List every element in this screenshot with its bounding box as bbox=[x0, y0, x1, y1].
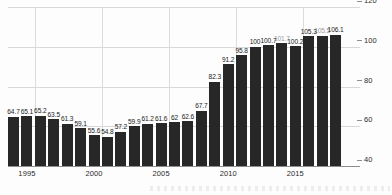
x-axis-tick-2000: 2000 bbox=[85, 169, 102, 178]
y-axis-tick-80: 80 bbox=[357, 76, 373, 85]
bar-rect bbox=[21, 116, 32, 166]
bar-value-label: 63.5 bbox=[48, 111, 60, 118]
bar-value-label: 62 bbox=[171, 114, 178, 121]
bar-rect bbox=[35, 116, 46, 166]
bar-rect bbox=[102, 137, 113, 166]
bar-rect bbox=[48, 119, 59, 166]
bar-value-label: 65.2 bbox=[34, 107, 46, 114]
bar-value-label: 95.8 bbox=[235, 47, 247, 54]
bar-value-label: 59.9 bbox=[128, 118, 140, 125]
bar-value-label: 61.3 bbox=[61, 115, 73, 122]
y-axis-tick-120: 120 bbox=[357, 0, 377, 5]
y-axis-tick-40: 40 bbox=[357, 155, 373, 164]
bar-rect bbox=[129, 126, 140, 166]
bar-chart: 64.765.165.263.561.359.155.654.857.259.9… bbox=[0, 0, 392, 195]
plot-area: 64.765.165.263.561.359.155.654.857.259.9… bbox=[8, 7, 357, 166]
bar-value-label: 82.3 bbox=[209, 73, 221, 80]
bar-rect bbox=[62, 124, 73, 166]
bar-value-label: 61.2 bbox=[141, 115, 153, 122]
bar-value-label: 61.6 bbox=[155, 115, 167, 122]
bar-rect bbox=[236, 55, 247, 166]
x-axis-tick-2015: 2015 bbox=[287, 169, 304, 178]
bar-value-label: 54.8 bbox=[101, 128, 113, 135]
bar-rect bbox=[263, 45, 274, 166]
bar-value-label: 57.2 bbox=[115, 123, 127, 130]
bar-rect bbox=[142, 124, 153, 166]
y-axis-tick-60: 60 bbox=[357, 115, 373, 124]
bar-rect bbox=[89, 135, 100, 166]
bar-rect bbox=[250, 47, 261, 166]
x-axis-tick-2005: 2005 bbox=[153, 169, 170, 178]
bar-series: 64.765.165.263.561.359.155.654.857.259.9… bbox=[8, 7, 357, 166]
bar-rect bbox=[115, 132, 126, 166]
bar-value-label: 100 bbox=[250, 38, 261, 45]
footer-artifact bbox=[150, 186, 390, 191]
y-axis-tick-100: 100 bbox=[357, 36, 377, 45]
bar-rect bbox=[75, 128, 86, 166]
bar-value-label: 91.2 bbox=[222, 56, 234, 63]
bar-rect bbox=[182, 121, 193, 166]
bar-rect bbox=[169, 122, 180, 166]
x-axis-tick-1995: 1995 bbox=[18, 169, 35, 178]
bar-value-label: 65.1 bbox=[21, 108, 33, 115]
bar-value-label: 106.1 bbox=[328, 26, 344, 33]
bar-rect bbox=[317, 36, 328, 166]
bar-value-label: 67.7 bbox=[195, 102, 207, 109]
bar-value-label: 55.6 bbox=[88, 127, 100, 134]
x-axis-tick-2010: 2010 bbox=[220, 169, 237, 178]
bar-rect bbox=[276, 43, 287, 166]
bar-rect bbox=[209, 82, 220, 166]
bar-rect bbox=[196, 111, 207, 166]
x-axis-labels: 19952000200520102015 bbox=[8, 169, 357, 183]
bar-value-label: 62.6 bbox=[182, 113, 194, 120]
bar-rect bbox=[303, 36, 314, 166]
bar-rect bbox=[156, 123, 167, 166]
bar-rect bbox=[330, 35, 341, 166]
x-axis-line bbox=[8, 166, 360, 167]
bar-value-label: 100.2 bbox=[287, 38, 303, 45]
bar-rect bbox=[223, 64, 234, 166]
bar-value-label: 59.1 bbox=[74, 120, 86, 127]
bar-rect bbox=[290, 46, 301, 166]
bar-rect bbox=[8, 117, 19, 166]
bar-value-label: 64.7 bbox=[7, 108, 19, 115]
y-axis: 406080100120 bbox=[357, 0, 392, 159]
